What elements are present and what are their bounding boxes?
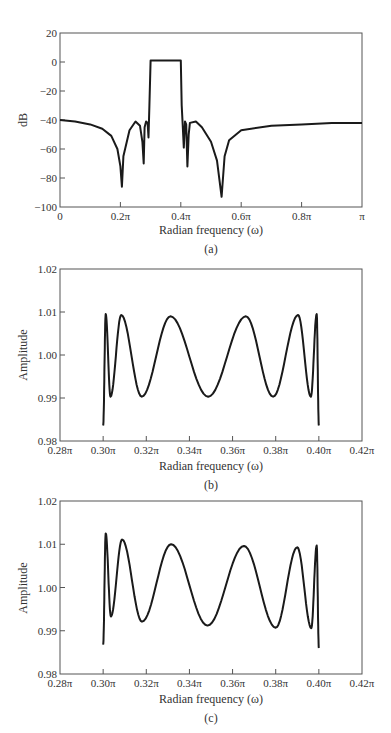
x-tick-label: 0.40π [306, 444, 331, 456]
x-axis-title: Radian frequency (ω) [159, 223, 263, 237]
chart-caption: (b) [204, 478, 218, 492]
chart-caption: (a) [204, 242, 217, 256]
x-axis-ticks: 0.28π0.30π0.32π0.34π0.36π0.38π0.40π0.42π [48, 669, 375, 689]
y-tick-label: 1.02 [38, 263, 57, 275]
x-tick-label: 0.42π [350, 677, 375, 689]
x-tick-label: 0.28π [48, 677, 73, 689]
y-axis-title: dB [16, 113, 30, 127]
magnitude-curve [60, 61, 362, 197]
y-tick-label: 1.00 [38, 582, 58, 594]
y-tick-label: −20 [40, 85, 58, 97]
x-tick-label: 0.30π [91, 444, 116, 456]
plot-frame [60, 33, 362, 207]
y-tick-label: −80 [40, 172, 58, 184]
x-tick-label: 0.38π [263, 677, 288, 689]
y-tick-label: 1.01 [38, 538, 57, 550]
y-axis-ticks: 1.021.011.000.990.98 [38, 495, 65, 680]
amplitude-curve [103, 533, 319, 648]
y-axis-title: Amplitude [16, 329, 30, 380]
x-tick-label: 0.34π [177, 677, 202, 689]
x-tick-label: 0.38π [263, 444, 288, 456]
x-tick-label: 0.30π [91, 677, 116, 689]
chart-b-passband-amplitude: 1.021.011.000.990.98 0.28π0.30π0.32π0.34… [16, 263, 375, 492]
y-tick-label: 1.02 [38, 495, 57, 507]
x-axis-title: Radian frequency (ω) [159, 692, 263, 706]
y-axis-title: Amplitude [16, 562, 30, 613]
chart-a-magnitude-db: 200−20−40−60−80−100 00.2π0.4π0.6π0.8ππ d… [16, 27, 365, 256]
y-tick-label: 0.99 [38, 392, 58, 404]
y-tick-label: −60 [40, 143, 58, 155]
x-tick-label: 0.40π [306, 677, 331, 689]
x-tick-label: 0.6π [232, 210, 252, 222]
figure: 200−20−40−60−80−100 00.2π0.4π0.6π0.8ππ d… [0, 0, 391, 733]
x-tick-label: 0.4π [171, 210, 191, 222]
y-tick-label: 1.01 [38, 306, 57, 318]
x-tick-label: 0 [57, 210, 63, 222]
x-tick-label: 0.8π [292, 210, 312, 222]
x-tick-label: 0.32π [134, 444, 159, 456]
x-tick-label: 0.28π [48, 444, 73, 456]
chart-caption: (c) [204, 711, 217, 725]
x-axis-ticks: 00.2π0.4π0.6π0.8ππ [57, 202, 365, 222]
x-axis-ticks: 0.28π0.30π0.32π0.34π0.36π0.38π0.40π0.42π [48, 436, 375, 456]
y-tick-label: −100 [34, 201, 57, 213]
x-tick-label: 0.2π [111, 210, 131, 222]
x-tick-label: 0.36π [220, 677, 245, 689]
y-tick-label: 1.00 [38, 349, 58, 361]
y-tick-label: −40 [40, 114, 58, 126]
y-axis-ticks: 1.021.011.000.990.98 [38, 263, 65, 447]
x-tick-label: 0.34π [177, 444, 202, 456]
x-tick-label: 0.42π [350, 444, 375, 456]
y-tick-label: 20 [46, 27, 58, 39]
x-tick-label: 0.36π [220, 444, 245, 456]
chart-c-quantized-amplitude: 1.021.011.000.990.98 0.28π0.30π0.32π0.34… [16, 495, 375, 725]
x-axis-title: Radian frequency (ω) [159, 459, 263, 473]
amplitude-curve [103, 314, 319, 425]
x-tick-label: 0.32π [134, 677, 159, 689]
y-tick-label: 0 [52, 56, 58, 68]
y-tick-label: 0.99 [38, 625, 58, 637]
x-tick-label: π [359, 210, 365, 222]
